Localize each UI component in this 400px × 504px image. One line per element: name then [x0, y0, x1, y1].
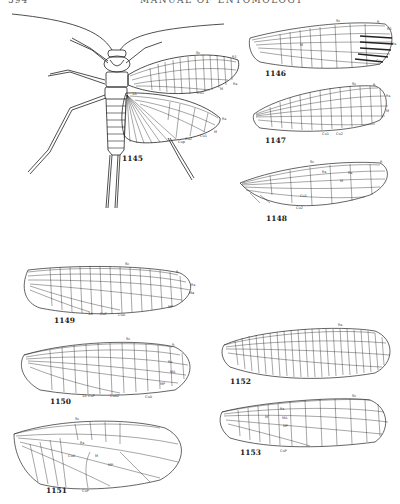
figure-label-1151: 1151: [46, 486, 67, 495]
svg-text:Rs: Rs: [168, 360, 172, 364]
svg-text:CuA: CuA: [68, 454, 76, 458]
svg-text:1A: 1A: [88, 312, 93, 316]
figure-1145: Sc R1 Rs M Cu1 Rs M Cu1 Cu2 Cup 1A 1145: [0, 0, 240, 230]
wing-illustration: ScR RsMA MP1A CuPCuA2 CuA: [0, 335, 220, 410]
svg-text:Rs: Rs: [222, 117, 226, 121]
svg-text:Rs: Rs: [348, 171, 352, 175]
svg-text:MP: MP: [160, 382, 165, 386]
svg-text:Sc: Sc: [352, 394, 356, 398]
svg-text:Sc: Sc: [336, 19, 340, 23]
wing-illustration: ScRs MMA MPCuP: [210, 390, 400, 470]
svg-text:Sc: Sc: [196, 51, 200, 55]
figure-1149: ScR RsMa MP1A CuPCuA 1149: [0, 258, 220, 333]
wing-illustration: ScR RsM Cu1Cu2: [240, 80, 400, 155]
svg-text:Sc: Sc: [352, 82, 356, 86]
svg-text:CuA: CuA: [145, 395, 153, 399]
figure-1152: Rs 1152: [210, 315, 400, 395]
svg-text:Rs: Rs: [338, 323, 342, 327]
figure-1151: ScRs CuAM MPCuP 1151: [0, 412, 220, 504]
svg-text:Rs: Rs: [233, 82, 237, 86]
figure-label-1150: 1150: [50, 397, 71, 406]
svg-text:Rs: Rs: [386, 94, 390, 98]
svg-text:MA: MA: [170, 370, 176, 374]
svg-text:M: M: [95, 454, 98, 458]
svg-text:M: M: [386, 109, 389, 113]
svg-text:Cu2: Cu2: [185, 137, 192, 141]
insect-illustration: Sc R1 Rs M Cu1 Rs M Cu1 Cu2 Cup 1A: [0, 0, 240, 230]
svg-text:R1: R1: [387, 27, 392, 31]
svg-text:Cu1: Cu1: [322, 132, 329, 136]
svg-text:Cu1: Cu1: [300, 194, 307, 198]
svg-text:R: R: [380, 160, 383, 164]
figure-1146: ScR R1Rs MCu 1146: [240, 12, 400, 87]
svg-text:Cu: Cu: [376, 59, 381, 63]
svg-text:CuP: CuP: [88, 394, 95, 398]
svg-text:Ma: Ma: [189, 291, 194, 295]
svg-text:MP: MP: [168, 305, 173, 309]
figure-1147: ScR RsM Cu1Cu2 1147: [240, 80, 400, 155]
svg-text:Cu2: Cu2: [296, 206, 303, 210]
svg-text:MP: MP: [108, 463, 113, 467]
svg-text:CuP: CuP: [82, 489, 89, 493]
svg-text:MA: MA: [282, 416, 288, 420]
svg-text:M: M: [220, 87, 223, 91]
svg-text:Sc: Sc: [125, 262, 129, 266]
svg-text:CuA2: CuA2: [110, 394, 119, 398]
figure-1150: ScR RsMA MP1A CuPCuA2 CuA 1150: [0, 335, 220, 410]
svg-text:CuP: CuP: [280, 449, 287, 453]
svg-text:Sc: Sc: [310, 160, 314, 164]
figure-label-1146: 1146: [265, 69, 286, 78]
svg-text:CuA: CuA: [118, 313, 126, 317]
figure-label-1147: 1147: [265, 136, 286, 145]
svg-text:Sc: Sc: [75, 417, 79, 421]
figure-label-1145: 1145: [122, 154, 143, 163]
wing-illustration: ScR R1Rs MCu: [240, 12, 400, 87]
svg-text:Rs: Rs: [322, 170, 326, 174]
svg-text:Rs: Rs: [191, 283, 195, 287]
svg-text:MP: MP: [283, 424, 288, 428]
svg-text:Rs: Rs: [80, 441, 84, 445]
svg-text:M: M: [214, 130, 217, 134]
figure-1153: ScRs MMA MPCuP 1153: [210, 390, 400, 470]
wing-illustration: ScRs CuAM MPCuP: [0, 412, 220, 504]
wing-illustration: ScR RsRs MCu1 Cu2: [230, 155, 400, 230]
svg-text:Cup: Cup: [178, 140, 186, 144]
figure-1148: ScR RsRs MCu1 Cu2 1148: [230, 155, 400, 230]
svg-text:R: R: [172, 343, 175, 347]
svg-text:M: M: [265, 415, 268, 419]
svg-text:Rs: Rs: [280, 407, 284, 411]
svg-text:R: R: [176, 270, 179, 274]
svg-text:CuP: CuP: [100, 312, 107, 316]
figure-label-1153: 1153: [240, 448, 261, 457]
svg-text:Cu1: Cu1: [197, 91, 204, 95]
svg-text:M: M: [340, 179, 343, 183]
svg-text:1A: 1A: [82, 394, 87, 398]
svg-text:Cu1: Cu1: [200, 134, 207, 138]
svg-text:M: M: [300, 43, 303, 47]
svg-text:Sc: Sc: [126, 337, 130, 341]
svg-text:1A: 1A: [132, 92, 137, 96]
figure-label-1152: 1152: [230, 377, 251, 386]
wing-illustration: ScR RsMa MP1A CuPCuA: [0, 258, 220, 333]
figure-label-1148: 1148: [266, 214, 287, 223]
figure-label-1149: 1149: [54, 316, 75, 325]
svg-text:Cu2: Cu2: [336, 132, 343, 136]
svg-text:R1: R1: [232, 55, 237, 59]
svg-text:Rs: Rs: [392, 42, 396, 46]
